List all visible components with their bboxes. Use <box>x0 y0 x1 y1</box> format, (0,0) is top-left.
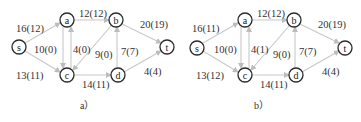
node-c: c <box>60 68 74 82</box>
node-b: b <box>109 13 123 27</box>
edge-label-c-a: 4(1) <box>251 44 269 56</box>
node-t: t <box>338 41 352 55</box>
svg-text:b: b <box>114 15 119 26</box>
node-a: a <box>60 13 74 27</box>
svg-text:a: a <box>65 15 70 26</box>
svg-text:d: d <box>294 70 299 81</box>
edge-label-d-t: 4(4) <box>144 66 162 78</box>
edge-label-b-c: 9(0) <box>273 49 291 61</box>
edge-label-s-c: 13(12) <box>196 70 224 82</box>
svg-text:b: b <box>292 15 297 26</box>
edge-label-d-b: 7(7) <box>121 46 139 58</box>
flow-network-figure: 16(12) 13(11) 10(0) 4(0) 12(12) 9(0) 14(… <box>0 0 361 122</box>
edge-label-a-b: 12(12) <box>257 8 285 20</box>
edge-label-c-a: 4(0) <box>73 44 91 56</box>
svg-text:c: c <box>65 70 70 81</box>
edge-label-a-b: 12(12) <box>79 8 107 20</box>
edge-label-s-a: 16(11) <box>192 23 220 35</box>
svg-text:d: d <box>116 70 121 81</box>
caption-b: b） <box>254 100 269 111</box>
edge-label-d-t: 4(4) <box>322 66 340 78</box>
node-d: d <box>289 68 303 82</box>
node-s: s <box>12 40 26 54</box>
edge-label-a-c: 10(0) <box>214 44 237 56</box>
edge-label-c-d: 14(11) <box>82 79 110 91</box>
svg-text:t: t <box>344 43 347 54</box>
edge-label-a-c: 10(0) <box>34 44 57 56</box>
edge-label-b-t: 20(19) <box>140 19 168 31</box>
node-d: d <box>111 68 125 82</box>
node-a: a <box>238 13 252 27</box>
diagram-b: 16(11) 13(12) 10(0) 4(1) 12(12) 9(0) 14(… <box>190 8 352 111</box>
svg-text:s: s <box>195 43 199 54</box>
edge-label-s-c: 13(11) <box>16 70 44 82</box>
caption-a: a） <box>80 100 94 111</box>
edge-label-b-c: 9(0) <box>95 49 113 61</box>
node-c: c <box>238 68 252 82</box>
svg-text:t: t <box>166 42 169 53</box>
svg-text:s: s <box>17 42 21 53</box>
node-t: t <box>160 40 174 54</box>
edge-label-c-d: 14(11) <box>260 79 288 91</box>
svg-text:a: a <box>243 15 248 26</box>
node-b: b <box>287 13 301 27</box>
edge-label-b-t: 20(19) <box>318 19 346 31</box>
diagram-a: 16(12) 13(11) 10(0) 4(0) 12(12) 9(0) 14(… <box>12 8 174 111</box>
node-s: s <box>190 41 204 55</box>
edge-label-d-b: 7(7) <box>299 46 317 58</box>
edge-label-s-a: 16(12) <box>16 23 44 35</box>
svg-text:c: c <box>243 70 248 81</box>
